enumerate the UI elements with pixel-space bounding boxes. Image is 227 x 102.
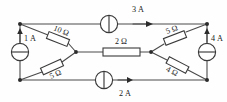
resistor-center[interactable]: 2 Ω [103, 37, 140, 56]
circuit-canvas: 3 A 2 A 1 A 4 A 10 Ω [0, 0, 227, 102]
wire-diag-lower-left-a [20, 72, 42, 80]
current-arrow-head-right-icon [204, 28, 210, 34]
current-source-left[interactable]: 1 A [11, 28, 36, 61]
node-bottom-left [18, 78, 22, 82]
resistor-center-label: 2 Ω [115, 37, 127, 46]
current-source-bottom[interactable]: 2 A [95, 71, 133, 98]
current-source-left-label: 1 A [24, 34, 36, 43]
current-arrow-head-bottom-icon [127, 77, 133, 83]
node-top-left [18, 22, 22, 26]
current-source-bottom-label: 2 A [119, 89, 131, 98]
resistor-lower-right[interactable]: 4 Ω [162, 57, 189, 81]
current-arrow-head-left-icon [17, 28, 23, 34]
current-source-right-label: 4 A [211, 34, 223, 43]
resistor-lower-left[interactable]: 5 Ω [40, 59, 67, 83]
wire-diag-lower-right-b [188, 70, 207, 80]
node-center-left [74, 50, 78, 54]
wire-diag-lower-right-a [151, 52, 167, 60]
current-source-right[interactable]: 4 A [198, 28, 223, 61]
resistor-body-icon [103, 48, 140, 56]
resistor-upper-right[interactable]: 5 Ω [160, 21, 187, 45]
node-center-right [149, 50, 153, 54]
node-bottom-right [205, 78, 209, 82]
node-top-right [205, 22, 209, 26]
current-arrow-head-top-icon [146, 21, 153, 27]
circuit-diagram-figure: 3 A 2 A 1 A 4 A 10 Ω [0, 0, 227, 102]
wire-diag-upper-right-a [151, 44, 164, 52]
resistor-upper-left[interactable]: 10 Ω [46, 22, 73, 46]
current-source-top-label: 3 A [132, 5, 144, 14]
wire-diag-upper-right-b [186, 24, 207, 32]
wire-diag-lower-left-b [62, 52, 76, 62]
current-source-top[interactable]: 3 A [100, 5, 153, 33]
